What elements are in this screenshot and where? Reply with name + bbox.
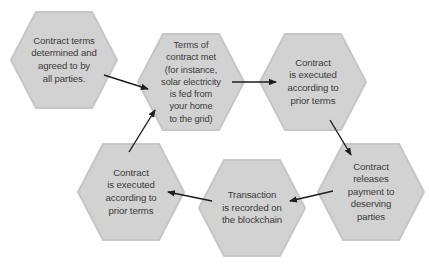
node-terms-met: Terms of contract met (for instance, sol…	[136, 32, 246, 132]
node-contract-terms-agreed: Contract terms determined and agreed to …	[9, 10, 119, 110]
node-label: Contract is executed according to prior …	[272, 32, 354, 132]
node-label: Transaction is recorded on the blockchai…	[211, 158, 293, 258]
node-label: Contract releases payment to deserving p…	[330, 142, 412, 242]
node-contract-executed-top: Contract is executed according to prior …	[258, 32, 368, 132]
node-contract-releases-payment: Contract releases payment to deserving p…	[316, 142, 426, 242]
smart-contract-cycle-diagram: Contract terms determined and agreed to …	[0, 0, 429, 268]
node-label: Contract terms determined and agreed to …	[23, 10, 105, 110]
node-label: Terms of contract met (for instance, sol…	[150, 32, 232, 132]
node-label: Contract is executed according to prior …	[90, 142, 172, 242]
node-transaction-recorded: Transaction is recorded on the blockchai…	[197, 158, 307, 258]
node-contract-executed-bottom: Contract is executed according to prior …	[76, 142, 186, 242]
